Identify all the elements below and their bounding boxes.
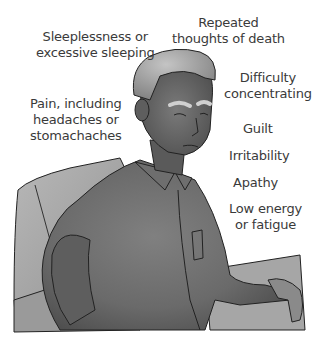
symptom-death: Repeated thoughts of death [172, 15, 285, 47]
symptom-pain-line2: headaches or [30, 112, 122, 128]
symptom-irritability: Irritability [229, 148, 289, 164]
symptom-energy-line1: Low energy [229, 201, 302, 217]
symptom-apathy-line1: Apathy [233, 175, 278, 191]
symptom-energy-line2: or fatigue [229, 217, 302, 233]
symptom-guilt: Guilt [243, 121, 273, 137]
symptom-apathy: Apathy [233, 175, 278, 191]
symptom-sleep-line1: Sleeplessness or [36, 29, 155, 45]
symptom-sleep-line2: excessive sleeping [36, 45, 155, 61]
symptom-concentration-line2: concentrating [224, 86, 312, 102]
symptom-death-line1: Repeated [172, 15, 285, 31]
symptom-guilt-line1: Guilt [243, 121, 273, 137]
symptom-energy: Low energy or fatigue [229, 201, 302, 233]
symptom-pain-line3: stomachaches [30, 128, 122, 144]
symptom-pain-line1: Pain, including [30, 96, 122, 112]
symptom-death-line2: thoughts of death [172, 31, 285, 47]
symptom-pain: Pain, including headaches or stomachache… [30, 96, 122, 144]
symptom-sleep: Sleeplessness or excessive sleeping [36, 29, 155, 61]
symptom-concentration-line1: Difficulty [224, 70, 312, 86]
symptom-concentration: Difficulty concentrating [224, 70, 312, 102]
man-head [133, 49, 215, 155]
symptom-irritability-line1: Irritability [229, 148, 289, 164]
